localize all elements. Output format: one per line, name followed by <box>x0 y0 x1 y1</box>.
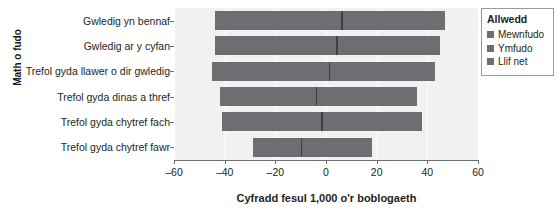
net-flow-marker <box>316 87 318 106</box>
x-axis-tick <box>478 160 479 164</box>
net-flow-marker <box>336 36 338 55</box>
x-axis-tick-label: 40 <box>407 166 447 178</box>
x-axis-tick-label: 0 <box>306 166 346 178</box>
bar-row <box>174 59 478 84</box>
net-flow-marker <box>329 62 331 81</box>
x-axis-tick <box>174 160 175 164</box>
x-axis-tick-label: –40 <box>205 166 245 178</box>
bar-row <box>174 8 478 33</box>
category-tick <box>170 71 174 72</box>
legend-swatch-icon <box>487 58 494 65</box>
bar-chart: Math o fudo Gwledig yn bennafGwledig ar … <box>0 0 560 217</box>
legend-swatch-icon <box>487 31 494 38</box>
x-axis-title: Cyfradd fesul 1,000 o'r boblogaeth <box>174 192 479 204</box>
bar-segment <box>212 62 435 81</box>
net-flow-marker <box>301 138 303 157</box>
bar-row <box>174 109 478 134</box>
x-axis-tick <box>275 160 276 164</box>
legend-swatch-icon <box>487 45 494 52</box>
category-axis-labels: Gwledig yn bennafGwledig ar y cyfanTrefo… <box>18 8 170 160</box>
x-axis-tick-label: 60 <box>458 166 498 178</box>
legend-item-label: Mewnfudo <box>498 29 544 40</box>
bar-row <box>174 135 478 160</box>
legend-title: Allwedd <box>487 13 548 25</box>
legend-item-label: Llif net <box>498 56 527 67</box>
bar-segment <box>253 138 372 157</box>
x-axis-tick <box>427 160 428 164</box>
category-label: Gwledig ar y cyfan <box>18 40 170 52</box>
bar-segment <box>215 36 440 55</box>
category-tick <box>170 122 174 123</box>
legend-item[interactable]: Mewnfudo <box>487 29 548 40</box>
category-label: Gwledig yn bennaf <box>18 15 170 27</box>
category-tick <box>170 21 174 22</box>
legend-item-label: Ymfudo <box>498 43 532 54</box>
x-axis-tick <box>326 160 327 164</box>
category-tick <box>170 46 174 47</box>
plot-area <box>174 8 478 160</box>
category-label: Trefol gyda dinas a thref <box>18 91 170 103</box>
x-axis-tick <box>377 160 378 164</box>
legend-items: MewnfudoYmfudoLlif net <box>487 29 548 67</box>
bar-row <box>174 84 478 109</box>
net-flow-marker <box>341 11 343 30</box>
x-axis-tick-label: 20 <box>357 166 397 178</box>
legend: Allwedd MewnfudoYmfudoLlif net <box>481 8 554 76</box>
bar-segment <box>215 11 446 30</box>
category-tick <box>170 147 174 148</box>
category-label: Trefol gyda chytref fawr <box>18 141 170 153</box>
x-axis-tick <box>225 160 226 164</box>
bar-segment <box>220 87 418 106</box>
bar-row <box>174 33 478 58</box>
legend-item[interactable]: Llif net <box>487 56 548 67</box>
category-label: Trefol gyda chytref fach <box>18 116 170 128</box>
category-label: Trefol gyda llawer o dir gwledig <box>18 65 170 77</box>
x-axis-tick-label: –60 <box>154 166 194 178</box>
legend-item[interactable]: Ymfudo <box>487 43 548 54</box>
net-flow-marker <box>321 112 323 131</box>
x-axis-tick-label: –20 <box>255 166 295 178</box>
category-tick <box>170 97 174 98</box>
